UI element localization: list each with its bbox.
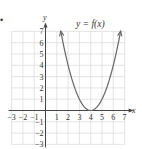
grid-lines (12, 31, 125, 144)
x-tick-label: −3 (7, 113, 16, 122)
y-tick-label: −2 (35, 129, 44, 138)
x-tick-label: −2 (19, 113, 28, 122)
y-tick-label: −3 (35, 140, 44, 149)
y-tick-label: 4 (40, 61, 44, 70)
y-axis-label: y (42, 13, 47, 22)
x-tick-label: 7 (123, 113, 127, 122)
x-tick-label: 4 (89, 113, 93, 122)
x-axis-label: x (131, 106, 136, 115)
y-axis-arrow-icon (44, 22, 48, 27)
x-tick-label: 1 (55, 113, 59, 122)
x-tick-label: 3 (77, 113, 81, 122)
y-tick-label: 6 (40, 39, 44, 48)
x-tick-label: 2 (66, 113, 70, 122)
y-tick-label: −1 (35, 118, 44, 127)
function-graph: −3−2−11234567−3−2−11234567 y = f(x) y x … (0, 0, 142, 149)
y-tick-label: 1 (40, 95, 44, 104)
y-tick-label: 3 (40, 73, 44, 82)
bullet-marker: • (0, 15, 3, 25)
chart-title: y = f(x) (75, 19, 105, 30)
axes (9, 22, 134, 147)
x-tick-label: 6 (111, 113, 115, 122)
y-tick-label: 2 (40, 84, 44, 93)
x-tick-label: 5 (100, 113, 104, 122)
y-tick-label: 7 (40, 27, 44, 36)
y-tick-label: 5 (40, 50, 44, 59)
